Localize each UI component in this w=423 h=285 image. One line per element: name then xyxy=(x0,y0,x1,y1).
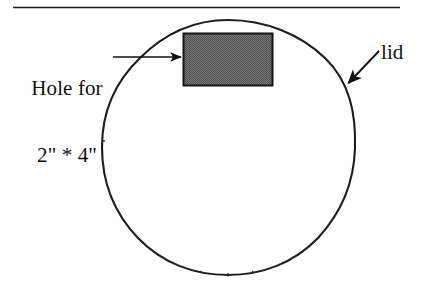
hole-rectangle xyxy=(184,34,273,86)
hole-label-line2: 2" * 4" xyxy=(17,144,117,166)
hole-label: Hole for 2" * 4" xyxy=(17,33,117,210)
lid-callout-arrow xyxy=(349,51,380,83)
lid-label: lid xyxy=(381,41,403,63)
figure-canvas: Hole for 2" * 4" lid xyxy=(0,0,423,285)
hole-label-line1: Hole for xyxy=(17,77,117,99)
